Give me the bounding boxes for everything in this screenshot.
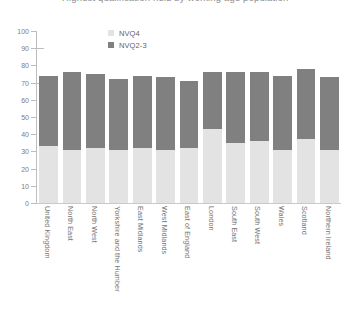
x-tick-label: Yorkshire and the Humber [113, 206, 122, 292]
bar-segment-nvq4[interactable] [250, 141, 269, 203]
y-tick-label: 70 [21, 79, 29, 86]
bar-segment-nvq4[interactable] [320, 150, 339, 203]
bar-group[interactable] [63, 72, 82, 203]
y-tick-mark [31, 117, 36, 118]
bar-segment-nvq4[interactable] [133, 148, 152, 203]
bar-segment-nvq2-3[interactable] [320, 77, 339, 149]
x-tick-label: West Midlands [160, 206, 169, 254]
y-tick-label: 0 [25, 200, 29, 207]
bar-segment-nvq4[interactable] [109, 150, 128, 203]
y-tick-label: 50 [21, 114, 29, 121]
y-tick-label: 40 [21, 131, 29, 138]
bar-group[interactable] [180, 81, 199, 203]
plot-area: 0102030405060708090100 [36, 31, 341, 203]
bar-segment-nvq2-3[interactable] [203, 72, 222, 129]
bar-segment-nvq2-3[interactable] [273, 76, 292, 150]
page-title: Highest qualification held by working ag… [62, 0, 288, 3]
bar-segment-nvq4[interactable] [180, 148, 199, 203]
bar-group[interactable] [39, 76, 58, 203]
y-tick-label: 60 [21, 96, 29, 103]
x-tick-label: South East [230, 206, 239, 242]
y-tick-mark [31, 100, 36, 101]
x-tick-label: East Midlands [136, 206, 145, 252]
x-axis-labels: United KingdomNorth EastNorth WestYorksh… [37, 206, 342, 318]
bar-group[interactable] [203, 72, 222, 203]
bar-group[interactable] [109, 79, 128, 203]
bar-segment-nvq2-3[interactable] [63, 72, 82, 149]
x-tick-label: East of England [183, 206, 192, 258]
x-tick-label: London [207, 206, 216, 231]
bar-segment-nvq2-3[interactable] [86, 74, 105, 148]
bar-segment-nvq4[interactable] [156, 150, 175, 203]
x-axis [36, 203, 341, 204]
y-tick-mark [31, 203, 36, 204]
bar-series-group [37, 31, 341, 203]
bar-segment-nvq4[interactable] [203, 129, 222, 203]
x-tick-label: South West [253, 206, 262, 244]
bar-group[interactable] [250, 72, 269, 203]
bar-segment-nvq2-3[interactable] [156, 77, 175, 149]
y-tick-mark [31, 169, 36, 170]
bar-segment-nvq2-3[interactable] [226, 72, 245, 143]
bar-group[interactable] [297, 69, 316, 203]
y-tick-label: 100 [17, 28, 29, 35]
bar-segment-nvq4[interactable] [273, 150, 292, 203]
bar-segment-nvq4[interactable] [297, 139, 316, 203]
bar-segment-nvq4[interactable] [86, 148, 105, 203]
bar-group[interactable] [226, 72, 245, 203]
bar-segment-nvq2-3[interactable] [133, 76, 152, 148]
bar-group[interactable] [273, 76, 292, 203]
y-tick-mark [31, 134, 36, 135]
y-tick-mark [31, 151, 36, 152]
bar-group[interactable] [156, 77, 175, 203]
x-tick-label: Wales [277, 206, 286, 226]
bar-group[interactable] [320, 77, 339, 203]
y-tick-mark [31, 65, 36, 66]
bar-segment-nvq2-3[interactable] [297, 69, 316, 140]
x-tick-label: North East [66, 206, 75, 241]
x-tick-label: United Kingdom [43, 206, 52, 259]
chart-container: Highest qualification held by working ag… [0, 0, 349, 320]
bar-segment-nvq2-3[interactable] [180, 81, 199, 148]
y-tick-label: 90 [21, 45, 29, 52]
y-tick-label: 80 [21, 62, 29, 69]
y-tick-label: 20 [21, 165, 29, 172]
bar-segment-nvq4[interactable] [63, 150, 82, 203]
bar-segment-nvq4[interactable] [39, 146, 58, 203]
bar-group[interactable] [133, 76, 152, 203]
bar-segment-nvq2-3[interactable] [39, 76, 58, 147]
bar-group[interactable] [86, 74, 105, 203]
y-tick-mark [31, 31, 36, 32]
bar-segment-nvq2-3[interactable] [109, 79, 128, 150]
x-tick-label: Northern Ireland [324, 206, 333, 260]
bar-segment-nvq4[interactable] [226, 143, 245, 203]
y-tick-label: 30 [21, 148, 29, 155]
x-tick-label: North West [90, 206, 99, 243]
bar-segment-nvq2-3[interactable] [250, 72, 269, 141]
x-tick-label: Scotland [300, 206, 309, 235]
y-tick-label: 10 [21, 182, 29, 189]
chart-title-clipped: Highest qualification held by working ag… [0, 0, 349, 9]
y-tick-mark [31, 186, 36, 187]
